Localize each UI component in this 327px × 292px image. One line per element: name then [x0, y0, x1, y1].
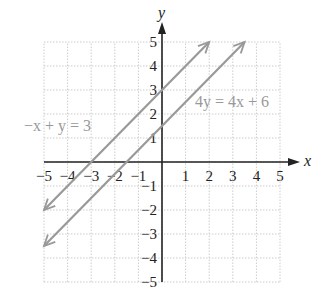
x-tick-label: 5 — [276, 168, 284, 184]
equation-label-1: −x + y = 3 — [24, 117, 91, 135]
x-tick-label: 3 — [229, 168, 237, 184]
y-tick-label: −5 — [141, 274, 157, 290]
equation-label-2: 4y = 4x + 6 — [195, 93, 269, 111]
x-tick-label: −3 — [83, 168, 99, 184]
y-tick-label: −4 — [141, 250, 157, 266]
x-tick-label: −2 — [107, 168, 123, 184]
y-tick-label: 5 — [150, 34, 158, 50]
axes: x y — [44, 4, 311, 282]
y-axis-arrow-icon — [158, 22, 166, 34]
y-tick-label: 2 — [150, 106, 158, 122]
x-axis-label: x — [303, 152, 311, 169]
x-tick-label: −5 — [36, 168, 52, 184]
y-tick-label: −3 — [141, 226, 157, 242]
x-tick-label: 1 — [182, 168, 190, 184]
x-axis-arrow-icon — [288, 158, 300, 166]
coordinate-plane: x y −5−4−3−2−11234554321−1−2−3−4−5 −x + … — [0, 0, 327, 292]
y-tick-label: −2 — [141, 202, 157, 218]
y-tick-label: 4 — [150, 58, 158, 74]
x-tick-label: 2 — [205, 168, 213, 184]
x-tick-label: 4 — [253, 168, 261, 184]
y-tick-label: −1 — [141, 178, 157, 194]
y-axis-label: y — [156, 4, 166, 22]
x-tick-label: −4 — [60, 168, 76, 184]
